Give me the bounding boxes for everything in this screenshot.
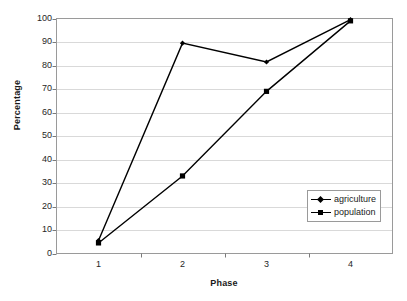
line-chart: Percentage 1009080706050403020100 1234 P…	[0, 0, 407, 301]
chart-legend[interactable]: agriculture population	[307, 190, 381, 222]
legend-item-label: agriculture	[332, 194, 376, 205]
data-point-population	[96, 240, 101, 245]
x-axis-title: Phase	[56, 278, 392, 288]
legend-item-population[interactable]: population	[310, 206, 376, 219]
x-axis-ticks	[142, 254, 310, 258]
plot-area	[0, 0, 407, 301]
x-axis-tick-label: 4	[331, 259, 371, 269]
x-axis-tick-label: 1	[79, 259, 119, 269]
legend-item-label: population	[332, 207, 376, 218]
data-point-agriculture	[264, 59, 269, 64]
x-axis-tick-labels: 1234	[0, 259, 407, 273]
data-point-population	[180, 173, 185, 178]
legend-item-agriculture[interactable]: agriculture	[310, 193, 376, 206]
data-point-agriculture	[180, 41, 185, 46]
data-point-population	[348, 18, 353, 23]
legend-marker-diamond-icon	[310, 194, 332, 205]
data-point-population	[264, 89, 269, 94]
x-axis-tick-label: 2	[163, 259, 203, 269]
x-axis-tick-label: 3	[247, 259, 287, 269]
legend-marker-square-icon	[310, 207, 332, 218]
